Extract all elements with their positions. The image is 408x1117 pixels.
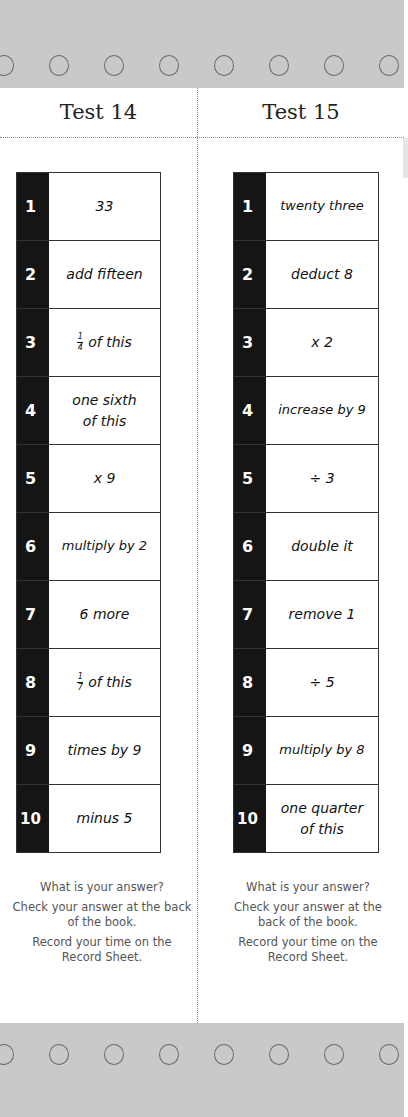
- bottom-perforation-band: [0, 1023, 404, 1117]
- step-number: 5: [234, 445, 266, 512]
- scrollbar[interactable]: [403, 138, 408, 178]
- fraction-denominator: 7: [78, 684, 83, 692]
- step-row: 314of this: [17, 308, 160, 376]
- step-operation-text: of this: [88, 672, 132, 692]
- answer-prompt: What is your answer?: [12, 880, 192, 895]
- hole-icon: [214, 1044, 234, 1065]
- step-row: 4increase by 9: [234, 376, 378, 444]
- test-15-title: Test 15: [198, 100, 404, 124]
- step-row: 1twenty three: [234, 173, 378, 240]
- step-row: 9multiply by 8: [234, 716, 378, 784]
- step-operation: double it: [266, 513, 378, 580]
- header-divider: [0, 137, 404, 138]
- step-number: 6: [234, 513, 266, 580]
- hole-icon: [269, 1044, 289, 1065]
- step-number: 4: [234, 377, 266, 444]
- test-14-chain: 133 2add fifteen 314of this 4one sixth o…: [16, 172, 161, 853]
- step-number: 7: [17, 581, 49, 648]
- step-number: 10: [17, 785, 49, 852]
- step-row: 8÷ 5: [234, 648, 378, 716]
- step-operation: minus 5: [49, 785, 160, 852]
- step-operation: ÷ 5: [266, 649, 378, 716]
- step-operation: 33: [49, 173, 160, 240]
- step-row: 7remove 1: [234, 580, 378, 648]
- hole-icon: [0, 1044, 14, 1065]
- step-number: 8: [17, 649, 49, 716]
- step-operation: ÷ 3: [266, 445, 378, 512]
- step-number: 3: [17, 309, 49, 376]
- fraction-numerator: 1: [78, 333, 83, 341]
- step-row: 3x 2: [234, 308, 378, 376]
- answer-prompt: What is your answer?: [228, 880, 388, 895]
- step-operation: 14of this: [49, 309, 160, 376]
- step-row: 6multiply by 2: [17, 512, 160, 580]
- step-number: 7: [234, 581, 266, 648]
- test-14-title: Test 14: [0, 100, 197, 124]
- hole-icon: [159, 1044, 179, 1065]
- check-answer-note: Check your answer at the back of the boo…: [228, 900, 388, 930]
- step-operation: deduct 8: [266, 241, 378, 308]
- test-15-chain: 1twenty three 2deduct 8 3x 2 4increase b…: [233, 172, 379, 853]
- step-operation: remove 1: [266, 581, 378, 648]
- test-15-instructions: What is your answer? Check your answer a…: [228, 880, 388, 970]
- step-number: 2: [17, 241, 49, 308]
- hole-icon: [0, 55, 14, 76]
- fraction: 17: [77, 673, 83, 692]
- step-operation: x 2: [266, 309, 378, 376]
- hole-icon: [159, 55, 179, 76]
- step-number: 9: [17, 717, 49, 784]
- hole-icon: [324, 55, 344, 76]
- hole-icon: [104, 1044, 124, 1065]
- step-row: 2add fifteen: [17, 240, 160, 308]
- step-row: 76 more: [17, 580, 160, 648]
- hole-icon: [104, 55, 124, 76]
- step-number: 8: [234, 649, 266, 716]
- hole-icon: [379, 1044, 399, 1065]
- step-number: 9: [234, 717, 266, 784]
- step-row: 9times by 9: [17, 716, 160, 784]
- hole-icon: [379, 55, 399, 76]
- step-operation: one quarter of this: [266, 785, 378, 852]
- step-row: 5÷ 3: [234, 444, 378, 512]
- fraction-denominator: 4: [78, 344, 83, 352]
- step-operation: multiply by 8: [266, 717, 378, 784]
- hole-icon: [214, 55, 234, 76]
- record-time-note: Record your time on the Record Sheet.: [12, 935, 192, 965]
- step-number: 1: [17, 173, 49, 240]
- step-row: 5x 9: [17, 444, 160, 512]
- fraction: 14: [77, 333, 83, 352]
- step-number: 1: [234, 173, 266, 240]
- step-operation: multiply by 2: [49, 513, 160, 580]
- step-operation: add fifteen: [49, 241, 160, 308]
- step-operation-text: of this: [88, 332, 132, 352]
- record-time-note: Record your time on the Record Sheet.: [228, 935, 388, 965]
- hole-icon: [324, 1044, 344, 1065]
- step-operation: twenty three: [266, 173, 378, 240]
- fraction-numerator: 1: [78, 673, 83, 681]
- step-row: 10one quarter of this: [234, 784, 378, 852]
- check-answer-note: Check your answer at the back of the boo…: [12, 900, 192, 930]
- step-number: 6: [17, 513, 49, 580]
- test-14-instructions: What is your answer? Check your answer a…: [12, 880, 192, 970]
- column-divider: [197, 88, 198, 1023]
- step-number: 2: [234, 241, 266, 308]
- step-operation: increase by 9: [266, 377, 378, 444]
- step-number: 5: [17, 445, 49, 512]
- step-row: 4one sixth of this: [17, 376, 160, 444]
- step-operation: one sixth of this: [49, 377, 160, 444]
- top-perforation-band: [0, 0, 404, 88]
- step-number: 4: [17, 377, 49, 444]
- step-operation: 17of this: [49, 649, 160, 716]
- step-row: 817of this: [17, 648, 160, 716]
- step-operation: 6 more: [49, 581, 160, 648]
- step-number: 3: [234, 309, 266, 376]
- step-operation: times by 9: [49, 717, 160, 784]
- hole-icon: [49, 55, 69, 76]
- step-row: 10minus 5: [17, 784, 160, 852]
- step-number: 10: [234, 785, 266, 852]
- hole-icon: [269, 55, 289, 76]
- punch-holes-top: [0, 55, 408, 79]
- step-row: 2deduct 8: [234, 240, 378, 308]
- step-operation: x 9: [49, 445, 160, 512]
- step-row: 133: [17, 173, 160, 240]
